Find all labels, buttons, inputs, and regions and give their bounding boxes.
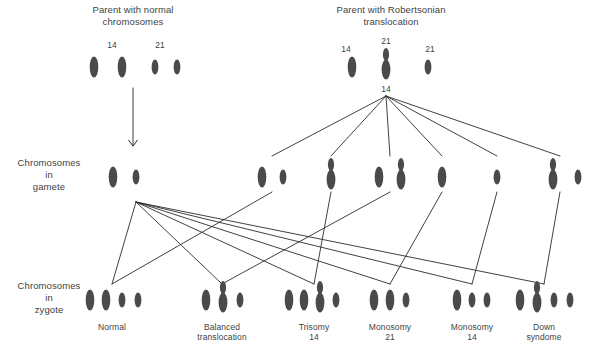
parent-right-chromosome-label-3: 14 — [346, 84, 426, 94]
gamete-normal-parent-chromosome-0 — [109, 167, 118, 188]
zygote-monosomy-14-chromosome-2 — [484, 293, 491, 308]
zygote-down-syndrome-chromosome-0 — [516, 290, 525, 311]
parent-right-chromosome-label-2: 21 — [390, 44, 470, 54]
zygote-monosomy-14-caption: Monosomy 14 — [432, 322, 512, 342]
zygote-trisomy-14-chromosome-3 — [333, 293, 340, 308]
zygote-normal-caption: Normal — [72, 322, 152, 332]
zygote-trisomy-14-chromosome-0 — [285, 290, 294, 311]
gamete-21-only-chromosome-0 — [494, 170, 501, 185]
gamete-fused-only-chromosome-0 — [327, 158, 336, 190]
parent-right-chromosome-2 — [425, 60, 432, 75]
gamete-14-and-fused-chromosome-0 — [375, 167, 384, 188]
zygote-down-syndrome-caption: Down syndome — [504, 322, 584, 342]
zygote-balanced-translocation-caption: Balanced translocation — [182, 322, 262, 342]
zygote-monosomy-21-chromosome-1 — [386, 290, 395, 311]
zygote-down-syndrome-chromosome-1 — [533, 281, 542, 313]
zygote-normal-chromosome-2 — [119, 293, 126, 308]
parent-left-chromosome-3 — [174, 60, 181, 75]
zygote-monosomy-21-caption: Monosomy 21 — [350, 322, 430, 342]
zygote-normal-chromosome-3 — [135, 293, 142, 308]
zygote-down-syndrome-chromosome-2 — [551, 293, 558, 308]
robertsonian-translocation-diagram: Parent with normal chromosomes Parent wi… — [0, 0, 597, 348]
zygote-balanced-translocation-chromosome-1 — [219, 281, 228, 313]
zygote-balanced-translocation-chromosome-0 — [202, 290, 211, 311]
parent-left-chromosome-2 — [152, 60, 159, 75]
parent-left-chromosome-label-1: 21 — [120, 40, 200, 50]
gamete-fused-and-21-chromosome-1 — [575, 170, 582, 185]
gamete-14-and-fused-chromosome-1 — [397, 158, 406, 190]
parent-left-chromosome-1 — [118, 57, 127, 78]
parent-left-title: Parent with normal chromosomes — [63, 4, 203, 27]
gamete-14-and-21-chromosome-1 — [280, 170, 287, 185]
zygote-down-syndrome-chromosome-3 — [567, 293, 574, 308]
zygote-monosomy-21-chromosome-2 — [403, 293, 410, 308]
gamete-14-and-21-chromosome-0 — [258, 167, 267, 188]
gamete-normal-parent-chromosome-1 — [133, 170, 140, 185]
gamete-fused-and-21-chromosome-0 — [549, 158, 558, 190]
zygote-balanced-translocation-chromosome-2 — [237, 293, 244, 308]
row-label-gamete: Chromosomes in gamete — [8, 157, 90, 193]
zygote-monosomy-14-chromosome-0 — [453, 290, 462, 311]
gamete-14-only-chromosome-0 — [438, 167, 447, 188]
parent-left-chromosome-0 — [90, 57, 99, 78]
zygote-trisomy-14-chromosome-2 — [316, 281, 325, 313]
zygote-monosomy-14-chromosome-1 — [469, 293, 476, 308]
parent-right-chromosome-0 — [348, 57, 357, 78]
zygote-monosomy-21-chromosome-0 — [370, 290, 379, 311]
zygote-trisomy-14-caption: Trisomy 14 — [274, 322, 354, 342]
row-label-zygote: Chromosomes in zygote — [8, 280, 90, 316]
zygote-trisomy-14-chromosome-1 — [300, 290, 309, 311]
zygote-normal-chromosome-1 — [102, 290, 111, 311]
parent-right-title: Parent with Robertsonian translocation — [316, 4, 466, 27]
